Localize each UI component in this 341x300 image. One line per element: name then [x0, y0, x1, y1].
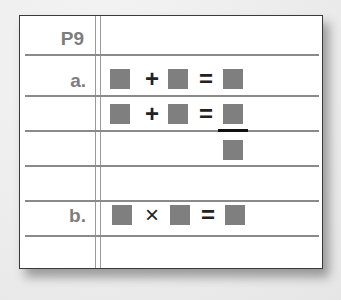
- rule-line: [25, 235, 319, 237]
- answer-box[interactable]: [170, 205, 190, 225]
- plus-sign: +: [142, 104, 162, 124]
- times-sign: ×: [142, 205, 162, 225]
- answer-box[interactable]: [225, 205, 245, 225]
- answer-box[interactable]: [110, 69, 130, 89]
- equals-sign: =: [196, 69, 216, 89]
- plus-sign: +: [142, 69, 162, 89]
- fraction-bar: [218, 129, 248, 132]
- answer-box[interactable]: [110, 104, 130, 124]
- rule-line: [25, 54, 319, 56]
- row-label-a: a.: [20, 70, 86, 92]
- denominator-box[interactable]: [223, 140, 243, 160]
- answer-box[interactable]: [112, 205, 132, 225]
- worksheet-card: P9 a. + = + = b. × =: [19, 15, 323, 269]
- problem-number: P9: [20, 28, 84, 50]
- numerator-box[interactable]: [223, 104, 243, 124]
- rule-line: [25, 95, 319, 97]
- answer-box[interactable]: [168, 104, 188, 124]
- row-label-b: b.: [20, 205, 86, 227]
- answer-box[interactable]: [223, 69, 243, 89]
- answer-box[interactable]: [168, 69, 188, 89]
- equals-sign: =: [196, 104, 216, 124]
- rule-line: [25, 200, 319, 202]
- equals-sign: =: [198, 205, 218, 225]
- rule-line: [25, 165, 319, 167]
- rule-line: [25, 130, 319, 132]
